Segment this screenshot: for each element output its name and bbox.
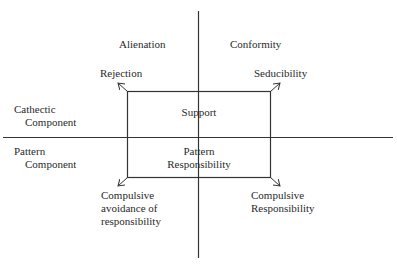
arrow-seducibility <box>271 83 281 92</box>
box-label-support: Support <box>128 106 270 119</box>
axis-label-cathectic-component: Component <box>25 116 76 129</box>
corner-label-compulsive-2: Compulsive <box>251 189 304 202</box>
diagram-lines <box>0 0 397 267</box>
quadrant-label-alienation: Alienation <box>119 38 165 51</box>
arrow-compulsive-responsibility <box>271 178 281 187</box>
axis-label-pattern: Pattern <box>14 145 45 158</box>
axis-label-cathectic: Cathectic <box>14 103 56 116</box>
arrow-compulsive-avoidance <box>118 178 128 187</box>
corner-label-of-responsibility: responsibility <box>101 215 161 228</box>
arrow-rejection <box>118 83 128 92</box>
corner-label-rejection: Rejection <box>100 67 142 80</box>
corner-label-compulsive-1: Compulsive <box>101 189 154 202</box>
corner-label-responsibility: Responsibility <box>251 202 315 215</box>
corner-label-seducibility: Seducibility <box>254 67 307 80</box>
box-label-pattern: Pattern <box>128 145 270 158</box>
quadrant-label-conformity: Conformity <box>230 38 281 51</box>
axis-label-pattern-component: Component <box>25 158 76 171</box>
corner-label-avoidance: avoidance of <box>101 202 158 215</box>
box-label-responsibility: Responsibility <box>128 158 270 171</box>
